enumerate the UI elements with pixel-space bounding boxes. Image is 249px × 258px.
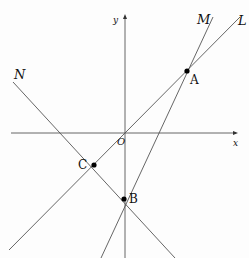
point-B (121, 196, 126, 201)
point-A-label: A (189, 73, 199, 87)
diagram-canvas: y x O M L N A B C (0, 0, 249, 258)
line-N-label: N (13, 67, 26, 82)
point-A (184, 68, 189, 73)
line-L-label: L (237, 13, 247, 28)
x-axis-arrow-icon (233, 131, 238, 135)
point-C-label: C (78, 158, 87, 172)
point-C (91, 162, 96, 167)
origin-label: O (117, 136, 125, 147)
line-L (9, 17, 240, 250)
line-N (13, 82, 175, 258)
line-M-label: M (196, 12, 211, 27)
point-B-label: B (129, 192, 138, 206)
y-axis-arrow-icon (123, 14, 127, 19)
x-axis-label: x (233, 138, 238, 148)
y-axis-label: y (112, 15, 119, 25)
coordinate-diagram: y x O M L N A B C (0, 0, 249, 258)
